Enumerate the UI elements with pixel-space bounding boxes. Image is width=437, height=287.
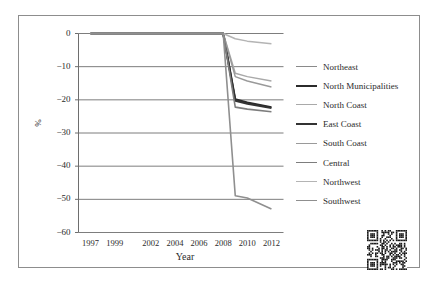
qr-module	[404, 243, 406, 245]
qr-module	[383, 235, 385, 237]
qr-module	[401, 264, 403, 266]
qr-module	[369, 246, 371, 248]
qr-module	[383, 256, 385, 258]
qr-module	[373, 259, 375, 261]
legend-item-east-coast[interactable]: East Coast	[296, 115, 418, 134]
legend-item-northwest[interactable]: Northwest	[296, 172, 418, 191]
qr-module	[391, 248, 393, 250]
qr-module	[393, 240, 395, 242]
qr-module	[391, 260, 393, 262]
qr-module	[391, 268, 393, 270]
legend-item-north-municipalities[interactable]: North Municipalities	[296, 76, 418, 95]
series-line-north-municipalities	[91, 34, 272, 108]
qr-module	[401, 244, 403, 246]
qr-module	[381, 244, 383, 246]
qr-module	[399, 235, 401, 237]
qr-module	[373, 243, 375, 245]
legend-item-south-coast[interactable]: South Coast	[296, 134, 418, 153]
qr-module	[381, 248, 383, 250]
legend-swatch-icon	[296, 200, 317, 201]
qr-module	[372, 248, 374, 250]
qr-module	[394, 259, 396, 261]
legend-item-north-coast[interactable]: North Coast	[296, 95, 418, 114]
qr-module	[394, 243, 396, 245]
qr-module	[372, 264, 374, 266]
qr-module	[393, 257, 395, 259]
qr-module	[399, 257, 401, 259]
qr-module	[396, 260, 398, 262]
qr-module	[385, 249, 387, 251]
qr-module	[375, 243, 377, 245]
qr-module	[393, 248, 395, 250]
qr-module	[370, 259, 372, 261]
qr-module	[389, 235, 391, 237]
qr-module	[393, 264, 395, 266]
qr-module	[402, 230, 404, 232]
qr-module	[373, 235, 375, 237]
qr-module	[370, 264, 372, 266]
qr-module	[383, 246, 385, 248]
qr-module	[380, 268, 382, 270]
y-tick-label-6: −60	[41, 227, 71, 237]
qr-module	[393, 268, 395, 270]
qr-module	[381, 268, 383, 270]
qr-module	[399, 256, 401, 258]
y-tick-label-4: −40	[41, 160, 71, 170]
qr-module	[404, 240, 406, 242]
legend-item-southwest[interactable]: Southwest	[296, 191, 418, 210]
qr-module	[381, 257, 383, 259]
qr-module	[405, 235, 407, 237]
qr-module	[386, 259, 388, 261]
qr-module	[394, 251, 396, 253]
qr-module	[377, 267, 379, 269]
qr-module	[381, 246, 383, 248]
legend-item-central[interactable]: Central	[296, 153, 418, 172]
legend-label: Northwest	[323, 177, 361, 187]
qr-module	[401, 268, 403, 270]
qr-module	[381, 259, 383, 261]
qr-module	[404, 256, 406, 258]
qr-module	[377, 256, 379, 258]
qr-module	[401, 230, 403, 232]
qr-module	[372, 249, 374, 251]
qr-module	[372, 259, 374, 261]
qr-module	[399, 233, 401, 235]
qr-module	[388, 232, 390, 234]
qr-module	[375, 268, 377, 270]
qr-module	[367, 240, 369, 242]
qr-module	[405, 236, 407, 238]
qr-module	[375, 254, 377, 256]
qr-module	[405, 249, 407, 251]
qr-module	[381, 249, 383, 251]
qr-module	[397, 260, 399, 262]
y-tick-label-2: −20	[41, 94, 71, 104]
qr-module	[386, 257, 388, 259]
qr-module	[380, 241, 382, 243]
legend-label: North Coast	[323, 100, 367, 110]
qr-module	[372, 252, 374, 254]
qr-module	[386, 264, 388, 266]
qr-module	[404, 262, 406, 264]
qr-module	[373, 230, 375, 232]
qr-module	[396, 235, 398, 237]
qr-module	[369, 268, 371, 270]
qr-module	[386, 243, 388, 245]
qr-module	[385, 232, 387, 234]
qr-module	[383, 240, 385, 242]
x-tick-label-1: 1999	[98, 238, 132, 248]
qr-module	[377, 265, 379, 267]
qr-module	[389, 230, 391, 232]
qr-module	[367, 264, 369, 266]
qr-module	[377, 246, 379, 248]
qr-module	[405, 252, 407, 254]
qr-module	[378, 248, 380, 250]
qr-module	[381, 236, 383, 238]
qr-module	[377, 233, 379, 235]
qr-module	[404, 230, 406, 232]
legend-item-northeast[interactable]: Northeast	[296, 57, 418, 76]
qr-module	[405, 248, 407, 250]
qr-module	[402, 236, 404, 238]
qr-module	[380, 264, 382, 266]
qr-module	[401, 248, 403, 250]
qr-module	[396, 240, 398, 242]
